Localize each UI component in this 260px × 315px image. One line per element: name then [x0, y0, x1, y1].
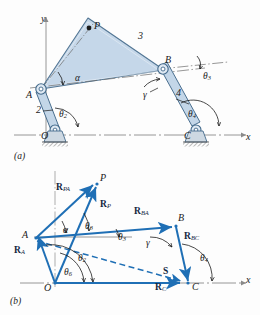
- vector-label-s: S: [163, 267, 168, 277]
- link-label-4: 4: [176, 88, 181, 98]
- point-O-b: [53, 281, 56, 284]
- vector-label-r-bc: RBC: [184, 232, 199, 242]
- angle-label-theta4-b: θ4: [200, 254, 208, 264]
- vector-label-r-p: RP: [100, 200, 111, 210]
- vector-label-r-c: RC: [155, 283, 166, 293]
- point-P-b: [95, 182, 98, 185]
- angle-label-alpha-b: α: [63, 226, 68, 236]
- axis-x-label-a: x: [246, 132, 250, 142]
- point-A-b: [34, 236, 37, 239]
- link-label-3: 3: [138, 31, 143, 41]
- joint-label-A-a: A: [26, 90, 32, 100]
- angle-label-alpha-a: α: [75, 74, 80, 84]
- angle-label-theta3-a: θ3: [203, 72, 211, 82]
- coupler-point-P: [87, 26, 92, 31]
- point-label-O-b: O: [44, 283, 51, 293]
- ground-hatch-O: [42, 142, 68, 147]
- point-label-A-b: A: [22, 230, 28, 240]
- angle-label-theta2-a: θ2: [59, 110, 67, 120]
- link-label-2: 2: [36, 105, 41, 115]
- vector-r-ba-arrow: [36, 227, 172, 238]
- vector-label-r-a: RA: [14, 246, 25, 256]
- joint-label-C-a: C: [184, 131, 191, 141]
- figure-canvas: y x A B O C P 2 3 4 α θ2 θ3 θ4 γ (a): [0, 0, 260, 315]
- arc-gamma-b: [150, 237, 172, 247]
- diagram-a-graphics: [0, 0, 260, 160]
- arc-gamma-a: [144, 79, 160, 87]
- arc-theta3-a: [197, 56, 201, 69]
- angle-label-theta4-a: θ4: [188, 110, 196, 120]
- diagram-b-graphics: [0, 165, 260, 315]
- joint-label-O-a: O: [41, 131, 48, 141]
- angle-label-theta2-b: θ2: [78, 254, 86, 264]
- joint-label-B-a: B: [165, 55, 171, 65]
- vector-label-r-pa: RPA: [56, 183, 70, 193]
- angle-label-gamma-b: γ: [146, 239, 150, 249]
- caption-a: (a): [14, 151, 25, 161]
- axis-y-label-a: y: [41, 14, 45, 24]
- point-label-B-b: B: [178, 213, 184, 223]
- coupler-point-label-P-a: P: [94, 21, 100, 31]
- leader-gamma: [150, 88, 158, 92]
- vector-label-r-ba: RBA: [134, 207, 149, 217]
- point-B-b: [174, 224, 177, 227]
- point-C-b: [186, 281, 189, 284]
- axis-x-label-b: x: [246, 275, 250, 285]
- point-label-P-b: P: [100, 173, 106, 183]
- caption-b: (b): [10, 296, 21, 306]
- angle-label-theta3-b: θ3: [85, 222, 93, 232]
- angle-label-gamma-a: γ: [143, 91, 147, 101]
- angle-label-theta6-b: θ6: [64, 268, 72, 278]
- ground-hatch-C: [183, 142, 209, 147]
- angle-label-theta3-ba-b: θ3: [118, 233, 126, 243]
- point-label-C-b: C: [192, 282, 199, 292]
